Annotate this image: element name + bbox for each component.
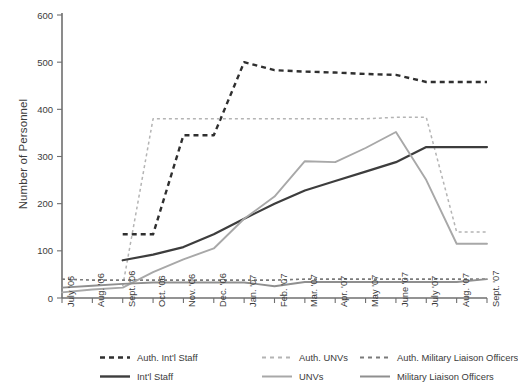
x-axis-tick-label: Apr. '07 [339, 276, 349, 307]
y-axis-tick-label: 300 [37, 151, 53, 162]
legend-label: UNVs [299, 371, 323, 382]
y-axis-tick-label: 600 [37, 10, 53, 21]
legend-item: Auth. Int'l Staff [100, 352, 198, 363]
legend-swatch [100, 353, 130, 362]
legend-item: Auth. UNVs [262, 352, 348, 363]
legend-label: Int'l Staff [137, 371, 173, 382]
legend-swatch [262, 353, 292, 362]
x-axis-tick-label: Aug. '07 [461, 273, 471, 307]
series-line-3 [123, 147, 487, 260]
legend-item: UNVs [262, 371, 323, 382]
series-line-0 [123, 62, 487, 234]
x-axis-tick-label: July '06 [66, 276, 76, 307]
chart-legend: Auth. Int'l StaffAuth. UNVsAuth. Militar… [0, 352, 497, 389]
x-axis-tick-label: Sept. '06 [127, 271, 137, 307]
x-axis-tick-label: May '07 [370, 275, 380, 307]
legend-item: Auth. Military Liaison Officers [360, 352, 518, 363]
y-axis-tick-label: 400 [37, 104, 53, 115]
legend-item: Military Liaison Officers [360, 371, 494, 382]
y-axis-tick-label: 500 [37, 57, 53, 68]
legend-label: Auth. Military Liaison Officers [397, 352, 518, 363]
y-axis-tick-label: 100 [37, 245, 53, 256]
x-axis-tick-label: Aug. '06 [96, 273, 106, 307]
y-axis-tick-label: 0 [48, 293, 53, 304]
legend-label: Military Liaison Officers [397, 371, 494, 382]
x-axis-tick-label: Jan. '07 [248, 275, 258, 307]
x-axis-tick-label: Sept. '07 [491, 271, 501, 307]
x-axis-tick-label: Feb. '07 [279, 274, 289, 307]
legend-label: Auth. UNVs [299, 352, 348, 363]
x-axis-tick-label: July '07 [430, 276, 440, 307]
legend-swatch [100, 372, 130, 381]
x-axis-tick-label: Oct. '06 [157, 275, 167, 307]
legend-swatch [360, 353, 390, 362]
y-axis-tick-label: 200 [37, 198, 53, 209]
series-line-2 [62, 279, 487, 280]
x-axis-tick-label: Nov. '06 [187, 274, 197, 307]
x-axis-tick-label: Mar. '07 [309, 274, 319, 307]
legend-swatch [360, 372, 390, 381]
legend-swatch [262, 372, 292, 381]
legend-label: Auth. Int'l Staff [137, 352, 198, 363]
x-axis-tick-label: June '07 [400, 272, 410, 307]
legend-item: Int'l Staff [100, 371, 173, 382]
x-axis-tick-label: Dec. '06 [218, 273, 228, 307]
